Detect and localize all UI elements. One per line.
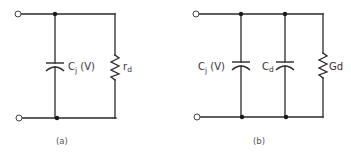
circuit-a: Cj (V) rd (a) — [15, 11, 132, 146]
label-gd: Gd — [329, 61, 343, 72]
junction-node — [284, 115, 288, 119]
junction-node — [239, 12, 243, 16]
circuit-diagram: Cj (V) rd (a) Cj (V) Cd Gd (b) — [0, 0, 351, 155]
resistor-icon — [111, 55, 119, 80]
junction-node — [283, 12, 287, 16]
label-rd: rd — [123, 61, 132, 74]
terminal-top-a — [15, 11, 21, 17]
terminal-bottom-b — [194, 114, 200, 120]
circuit-b: Cj (V) Cd Gd (b) — [193, 11, 343, 146]
caption-a: (a) — [56, 136, 68, 146]
junction-node — [53, 12, 57, 16]
terminal-top-b — [193, 11, 199, 17]
junction-node — [55, 116, 59, 120]
label-cd: Cd — [262, 61, 274, 74]
terminal-bottom-a — [16, 115, 22, 121]
junction-node — [240, 115, 244, 119]
label-cj-a: Cj (V) — [68, 61, 95, 75]
resistor-icon — [319, 53, 327, 78]
caption-b: (b) — [253, 136, 265, 146]
label-cj-b: Cj (V) — [198, 61, 225, 75]
